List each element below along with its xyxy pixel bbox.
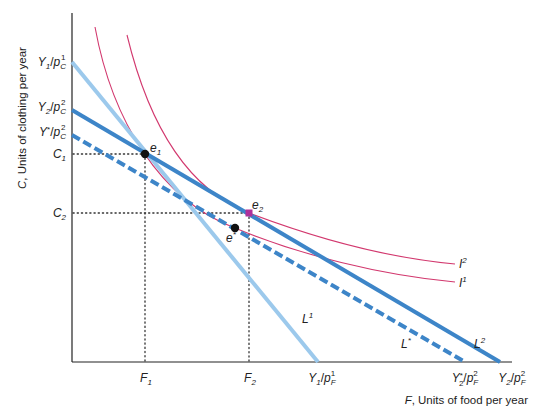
- point-e1: [141, 150, 149, 158]
- guide-lines: [73, 154, 249, 361]
- tick-y2-pf2: Y2/pF2: [498, 369, 527, 387]
- budget-line-l1: [72, 62, 318, 362]
- budget-lines: [72, 62, 500, 362]
- tick-f1: F1: [140, 371, 152, 387]
- indifference-curve-i2: [127, 35, 455, 264]
- tick-c2: C2: [53, 206, 67, 222]
- label-i2: I2: [459, 256, 467, 271]
- x-axis-title: F, Units of food per year: [405, 394, 529, 406]
- tick-y2-pc2: Y2/pC2: [38, 98, 67, 116]
- label-estar: e*: [226, 230, 237, 245]
- tick-y2star-pf2: Y*2/pF2: [452, 369, 480, 388]
- axes: [72, 13, 512, 362]
- label-lstar: L*: [401, 336, 412, 351]
- x-tick-labels: F1 F2 Y1/pF1 Y*2/pF2 Y2/pF2: [140, 369, 527, 388]
- budget-line-lstar: [72, 135, 465, 362]
- y-axis-title: C, Units of clothing per year: [16, 47, 28, 189]
- label-e2: e2: [252, 198, 264, 214]
- label-l1: L1: [302, 311, 313, 326]
- tick-ystar-pc2: Y*/pC2: [39, 123, 66, 141]
- tick-f2: F2: [244, 371, 256, 387]
- y-tick-labels: Y1/pC1 Y2/pC2 Y*/pC2 C1 C2: [38, 53, 67, 222]
- label-l2: L2: [474, 336, 486, 351]
- tick-c1: C1: [53, 147, 66, 163]
- label-e1: e1: [150, 141, 161, 157]
- economics-diagram: e1 e2 e* I2 I1 L1 L* L2 Y1/pC1 Y2/pC: [0, 0, 545, 410]
- tick-y1-pf1: Y1/pF1: [308, 369, 337, 387]
- tick-y1-pc1: Y1/pC1: [38, 53, 67, 71]
- label-i1: I1: [459, 275, 467, 290]
